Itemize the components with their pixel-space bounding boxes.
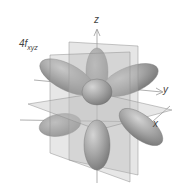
center-lobes xyxy=(82,79,112,105)
lobe-center xyxy=(82,79,112,105)
orbital-label: 4fxyz xyxy=(19,38,38,51)
z-axis-label: z xyxy=(94,14,99,25)
lobe-lower-front xyxy=(84,120,110,170)
orbital-diagram: 4fxyz z y x xyxy=(0,0,188,190)
x-axis-label: x xyxy=(153,118,158,129)
y-axis-label: y xyxy=(163,84,168,95)
orbital-label-subscript: xyz xyxy=(27,44,38,51)
orbital-svg xyxy=(0,0,188,190)
